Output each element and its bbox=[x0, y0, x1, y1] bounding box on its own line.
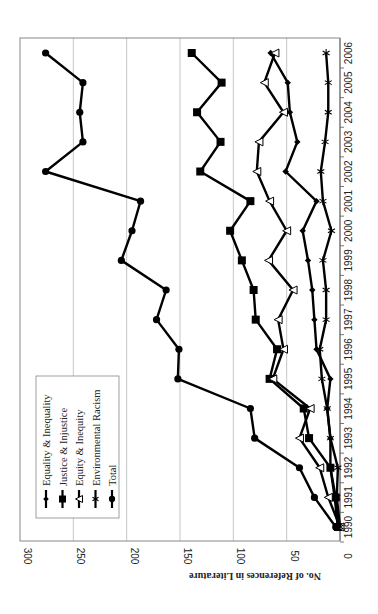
star-marker-icon bbox=[323, 286, 330, 294]
circle-marker-icon bbox=[42, 49, 49, 56]
square-marker-icon bbox=[246, 197, 254, 205]
y-tick-label: 100 bbox=[235, 548, 246, 565]
circle-marker-icon bbox=[174, 375, 181, 382]
circle-marker-icon bbox=[79, 138, 86, 145]
square-marker-icon bbox=[326, 464, 334, 472]
star-marker-icon bbox=[325, 79, 332, 87]
square-marker-icon bbox=[59, 496, 66, 503]
y-tick-label: 300 bbox=[22, 548, 33, 565]
star-marker-icon bbox=[325, 108, 332, 116]
circle-marker-icon bbox=[296, 464, 303, 471]
x-axis-ticks: 1990199119921993199419951996199719981999… bbox=[340, 41, 354, 542]
circle-marker-icon bbox=[251, 435, 258, 442]
square-marker-icon bbox=[305, 434, 313, 442]
y-tick-label: 0 bbox=[342, 553, 353, 559]
circle-marker-icon bbox=[109, 496, 115, 502]
series-equality-inequality bbox=[267, 50, 341, 530]
circle-marker-icon bbox=[247, 405, 254, 412]
x-tick-label: 2001 bbox=[343, 190, 354, 213]
star-marker-icon bbox=[318, 375, 325, 383]
x-tick-label: 2004 bbox=[343, 101, 354, 124]
circle-marker-icon bbox=[311, 494, 318, 501]
x-tick-label: 1999 bbox=[343, 249, 354, 272]
circle-marker-icon bbox=[79, 79, 86, 86]
x-tick-label: 2006 bbox=[343, 41, 354, 64]
y-tick-label: 250 bbox=[75, 548, 86, 565]
x-tick-label: 1991 bbox=[343, 486, 354, 509]
legend: Equality & InequalityJustice & Injustice… bbox=[36, 376, 119, 518]
x-tick-label: 2000 bbox=[343, 219, 354, 242]
circle-marker-icon bbox=[128, 227, 135, 234]
legend-label: Justice & Injustice bbox=[58, 408, 69, 486]
square-marker-icon bbox=[217, 138, 225, 146]
x-tick-label: 1998 bbox=[343, 278, 354, 301]
x-tick-label: 1995 bbox=[343, 367, 354, 390]
y-axis-ticks: 050100150200250300 bbox=[22, 548, 353, 565]
x-tick-label: 1990 bbox=[343, 515, 354, 538]
square-marker-icon bbox=[238, 256, 246, 264]
star-marker-icon bbox=[323, 316, 330, 324]
square-marker-icon bbox=[226, 227, 234, 235]
square-marker-icon bbox=[250, 286, 258, 294]
circle-marker-icon bbox=[332, 523, 339, 530]
star-marker-icon bbox=[319, 256, 326, 264]
circle-marker-icon bbox=[153, 316, 160, 323]
circle-marker-icon bbox=[175, 346, 182, 353]
x-tick-label: 1994 bbox=[343, 397, 354, 420]
y-tick-label: 200 bbox=[129, 548, 140, 565]
legend-label: Equality & Inequality bbox=[41, 394, 52, 486]
x-tick-label: 2003 bbox=[343, 130, 354, 153]
star-marker-icon bbox=[317, 168, 324, 176]
triangle-marker-icon bbox=[265, 256, 273, 264]
legend-label: Environmental Racism bbox=[91, 389, 102, 486]
x-tick-label: 1992 bbox=[343, 456, 354, 479]
circle-marker-icon bbox=[42, 168, 49, 175]
circle-marker-icon bbox=[163, 286, 170, 293]
line-chart: 050100150200250300 199019911992199319941… bbox=[0, 0, 378, 614]
y-tick-label: 150 bbox=[182, 548, 193, 565]
x-tick-label: 1997 bbox=[343, 308, 354, 331]
x-tick-label: 2002 bbox=[343, 160, 354, 183]
star-marker-icon bbox=[328, 227, 335, 235]
square-marker-icon bbox=[218, 79, 226, 87]
square-marker-icon bbox=[252, 316, 260, 324]
y-tick-label: 50 bbox=[289, 550, 300, 562]
x-tick-label: 2005 bbox=[343, 71, 354, 94]
star-marker-icon bbox=[323, 49, 330, 57]
square-marker-icon bbox=[188, 49, 196, 57]
series-justice-injustice bbox=[188, 49, 342, 531]
square-marker-icon bbox=[196, 168, 204, 176]
series-line bbox=[192, 53, 338, 527]
circle-marker-icon bbox=[118, 257, 125, 264]
diamond-marker-icon bbox=[309, 287, 315, 293]
diamond-marker-icon bbox=[311, 316, 317, 322]
x-tick-label: 1993 bbox=[343, 427, 354, 450]
circle-marker-icon bbox=[137, 198, 144, 205]
square-marker-icon bbox=[193, 108, 201, 116]
diamond-marker-icon bbox=[305, 257, 311, 263]
star-marker-icon bbox=[322, 138, 329, 146]
y-axis-title: No. of References in Literature bbox=[188, 571, 321, 582]
x-tick-label: 1996 bbox=[343, 338, 354, 361]
circle-marker-icon bbox=[76, 109, 83, 116]
star-marker-icon bbox=[319, 197, 326, 205]
legend-label: Equity & Inequity bbox=[74, 409, 85, 486]
diamond-marker-icon bbox=[294, 139, 300, 145]
legend-label: Total bbox=[107, 464, 118, 486]
